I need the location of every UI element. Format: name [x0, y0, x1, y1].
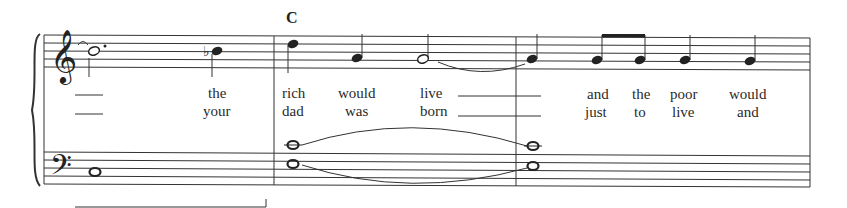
lyric: live — [672, 105, 695, 120]
brace — [32, 34, 40, 186]
lyric: to — [634, 105, 646, 120]
bass-staff — [44, 152, 810, 187]
lyric: and — [587, 87, 609, 102]
lyric: dad — [282, 104, 304, 119]
lyric: poor — [670, 87, 698, 102]
lyric: the — [632, 87, 650, 102]
lyric: your — [203, 104, 231, 119]
lyric: rich — [282, 86, 305, 101]
bass-clef-icon: 𝄢 — [50, 148, 72, 188]
lyric: the — [208, 86, 226, 101]
lyric: was — [345, 104, 368, 119]
lyric: live — [420, 86, 443, 101]
lyric: born — [420, 104, 448, 119]
treble-staff — [44, 35, 810, 70]
lyric: would — [338, 86, 376, 101]
flat-icon: ♭ — [203, 43, 210, 59]
lyric: and — [737, 105, 759, 120]
chord-symbol: C — [286, 9, 298, 27]
lyric: would — [729, 87, 767, 102]
lyric: just — [585, 105, 607, 120]
note-half — [87, 45, 100, 56]
beam — [602, 34, 645, 38]
treble-clef-icon: 𝄞 — [50, 29, 77, 85]
